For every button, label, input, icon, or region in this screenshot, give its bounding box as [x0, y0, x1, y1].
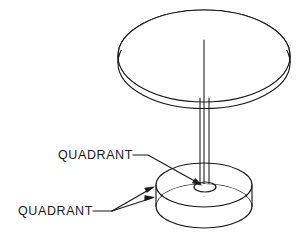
quadrant-top-label: QUADRANT	[58, 148, 133, 162]
base-disc-rear-mask	[156, 184, 252, 206]
quadrant-bottom-arrowhead-lower	[145, 196, 155, 201]
annotation-quadrant-bottom	[93, 187, 154, 211]
technical-drawing: QUADRANT QUADRANT	[0, 0, 307, 242]
drawing-canvas: QUADRANT QUADRANT	[0, 0, 307, 242]
stem-group	[200, 40, 209, 196]
annotation-quadrant-top	[133, 155, 202, 185]
quadrant-top-leader-line	[133, 155, 200, 184]
quadrant-bottom-label: QUADRANT	[18, 204, 93, 218]
